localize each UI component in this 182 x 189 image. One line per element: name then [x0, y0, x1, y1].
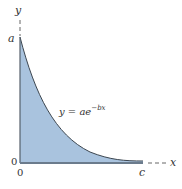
- equation-main: y = ae: [58, 106, 91, 117]
- origin-label-bottom: 0: [17, 167, 23, 178]
- equation-label: y = ae−bx: [58, 104, 106, 117]
- diagram-canvas: y a x c 0 0 y = ae−bx: [0, 0, 182, 189]
- c-label: c: [139, 166, 145, 179]
- shaded-area: [20, 37, 143, 163]
- y-axis-label: y: [14, 4, 22, 17]
- equation-exponent: −bx: [91, 104, 105, 112]
- a-label: a: [8, 32, 15, 45]
- origin-label-left: 0: [11, 156, 17, 167]
- x-axis-label: x: [170, 156, 177, 169]
